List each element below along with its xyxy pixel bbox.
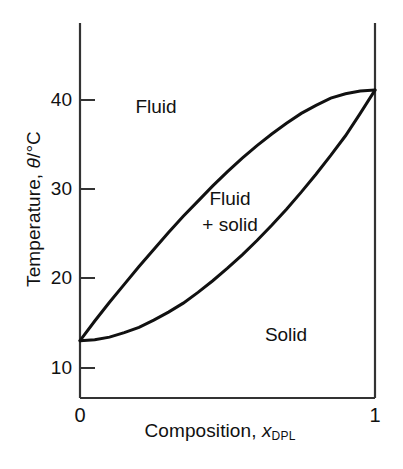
x-axis-title-subscript: DPL — [272, 429, 296, 443]
region-label-fluid-plus-solid-line2: + solid — [178, 212, 282, 238]
y-axis-title-symbol: θ — [23, 158, 44, 168]
region-label-solid: Solid — [240, 324, 332, 346]
x-axis-title-prefix: Composition, — [144, 420, 261, 441]
y-tick-label-10: 10 — [32, 357, 72, 379]
region-label-fluid-plus-solid: Fluid + solid — [178, 186, 282, 238]
x-axis-title-symbol: x — [262, 420, 272, 441]
x-tick-label-0: 0 — [65, 404, 95, 427]
y-axis-title-prefix: Temperature, — [23, 168, 44, 287]
y-axis-ticks — [80, 100, 95, 368]
phase-diagram-figure: 40 30 20 10 0 1 Temperature, θ/°C Compos… — [0, 0, 403, 469]
y-axis-title-suffix: /°C — [23, 131, 44, 158]
y-axis-title: Temperature, θ/°C — [23, 89, 45, 329]
region-label-fluid-plus-solid-line1: Fluid — [178, 186, 282, 212]
region-label-fluid: Fluid — [110, 96, 202, 118]
x-axis-title: Composition, xDPL — [110, 420, 330, 442]
x-tick-label-1: 1 — [360, 404, 390, 427]
